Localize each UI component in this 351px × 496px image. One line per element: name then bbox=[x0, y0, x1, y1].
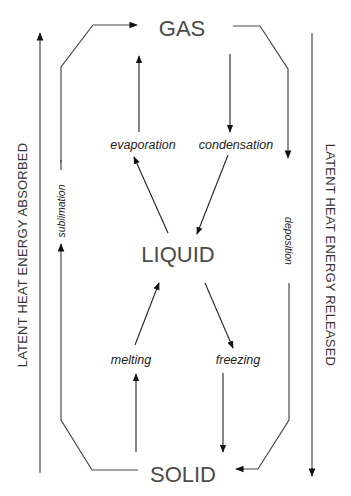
label-condensation: condensation bbox=[199, 138, 273, 152]
state-solid: SOLID bbox=[150, 462, 216, 487]
phase-change-diagram: GAS LIQUID SOLID evaporation condensatio… bbox=[0, 0, 351, 496]
side-label-released: LATENT HEAT ENERGY RELEASED bbox=[323, 144, 338, 366]
side-label-absorbed: LATENT HEAT ENERGY ABSORBED bbox=[15, 143, 30, 368]
deposition-path-lower bbox=[236, 283, 289, 469]
liquid-to-freezing-arrow bbox=[205, 283, 233, 348]
label-deposition: deposition bbox=[283, 217, 295, 265]
label-melting: melting bbox=[111, 353, 151, 367]
label-evaporation: evaporation bbox=[110, 138, 175, 152]
melting-to-liquid-arrow bbox=[135, 283, 159, 345]
label-freezing: freezing bbox=[216, 353, 261, 367]
state-gas: GAS bbox=[159, 16, 205, 41]
condensation-to-liquid-arrow bbox=[197, 155, 228, 234]
label-sublimation: sublimation bbox=[55, 184, 67, 237]
state-liquid: LIQUID bbox=[141, 242, 214, 267]
liquid-to-evaporation-arrow bbox=[134, 157, 168, 233]
